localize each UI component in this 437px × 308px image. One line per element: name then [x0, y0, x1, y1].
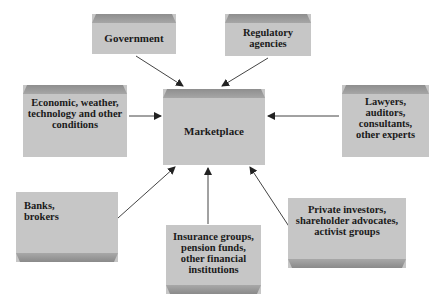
node-economic-conditions: Economic, weather, technology and other … — [23, 85, 127, 157]
node-label: Economic, weather, technology and other … — [28, 97, 123, 130]
arrow-banks — [118, 167, 175, 218]
node-label: Private investors, shareholder advocates… — [296, 204, 398, 237]
node-insurance-institutions: Insurance groups, pension funds, other f… — [166, 225, 261, 294]
node-marketplace: Marketplace — [163, 89, 265, 165]
node-banks-brokers: Banks, brokers — [16, 192, 118, 262]
node-label: Marketplace — [184, 126, 244, 137]
node-label: Lawyers, auditors, consultants, other ex… — [356, 96, 415, 140]
arrow-government — [136, 56, 183, 86]
node-lawyers-experts: Lawyers, auditors, consultants, other ex… — [342, 85, 429, 157]
node-private-investors: Private investors, shareholder advocates… — [288, 198, 406, 268]
arrow-private — [250, 167, 290, 228]
node-label: Insurance groups, pension funds, other f… — [173, 231, 254, 275]
node-label: Banks, brokers — [24, 200, 59, 222]
node-government: Government — [92, 14, 176, 54]
node-label: Regulatory agencies — [243, 27, 293, 49]
node-label: Government — [104, 33, 163, 44]
arrow-regulatory — [222, 58, 268, 86]
node-regulatory-agencies: Regulatory agencies — [225, 14, 311, 56]
